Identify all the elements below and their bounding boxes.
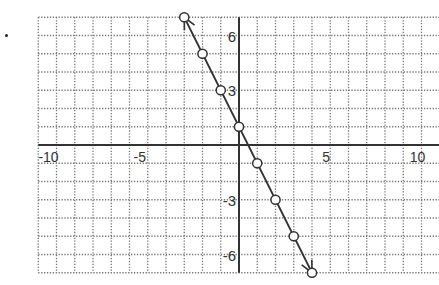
data-point	[271, 195, 280, 204]
y-tick-label: -6	[223, 247, 236, 264]
x-tick-label: 5	[322, 149, 330, 165]
y-tick-label: -3	[223, 192, 236, 209]
data-point	[307, 268, 316, 277]
data-point	[289, 232, 298, 241]
x-tick-label: 10	[410, 149, 426, 165]
data-point	[198, 49, 207, 58]
data-point	[253, 159, 262, 168]
x-tick-label: -5	[134, 149, 147, 165]
data-point	[234, 122, 243, 131]
coordinate-plane-chart: -10-551063-3-6	[0, 0, 439, 285]
y-tick-label: 3	[228, 82, 236, 99]
axes	[38, 17, 439, 273]
x-tick-label: -10	[38, 149, 58, 165]
data-point	[180, 13, 189, 22]
data-point	[216, 86, 225, 95]
y-tick-label: 6	[228, 28, 236, 45]
